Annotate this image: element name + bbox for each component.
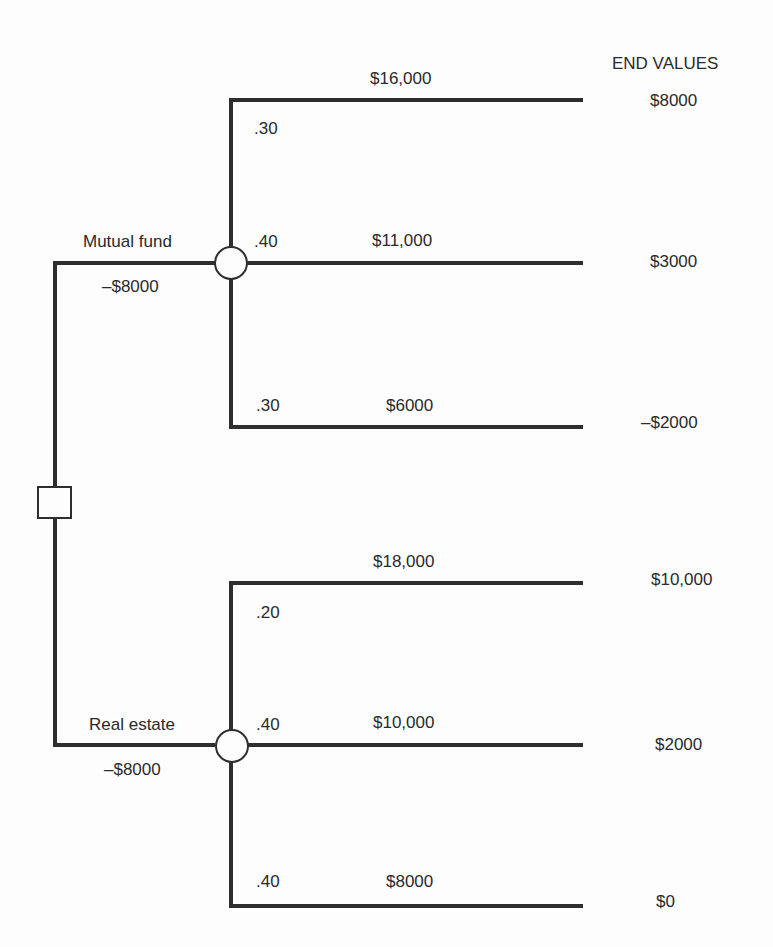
alternative-cost-real-estate: –$8000: [104, 761, 161, 778]
end-value-label: $10,000: [651, 571, 712, 588]
payoff-label: $11,000: [372, 232, 432, 249]
decision-tree-lines: [0, 0, 773, 947]
end-value-label: –$2000: [641, 414, 698, 431]
probability-label: .40: [254, 233, 278, 250]
end-value-label: $3000: [650, 253, 697, 270]
payoff-label: $8000: [386, 873, 433, 890]
payoff-label: $10,000: [373, 714, 434, 731]
probability-label: .30: [254, 120, 278, 137]
chance-node-mutual-fund: [215, 247, 247, 279]
probability-label: .40: [256, 716, 280, 733]
end-values-title: END VALUES: [612, 55, 718, 72]
end-value-label: $2000: [655, 736, 702, 753]
alternative-label-real-estate: Real estate: [89, 716, 175, 733]
probability-label: .30: [256, 397, 280, 414]
probability-label: .40: [256, 873, 280, 890]
payoff-label: $6000: [386, 397, 433, 414]
end-value-label: $8000: [650, 92, 697, 109]
end-value-label: $0: [656, 893, 675, 910]
decision-node-square: [38, 487, 71, 518]
payoff-label: $16,000: [370, 70, 431, 87]
alternative-cost-mutual-fund: –$8000: [102, 278, 159, 295]
probability-label: .20: [256, 604, 280, 621]
alternative-label-mutual-fund: Mutual fund: [83, 233, 172, 250]
payoff-label: $18,000: [373, 553, 434, 570]
chance-node-real-estate: [216, 730, 248, 762]
